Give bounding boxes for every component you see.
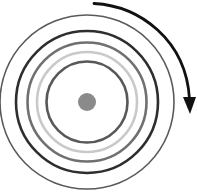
background [0, 0, 197, 192]
rotation-diagram [0, 0, 197, 192]
center-dot [78, 93, 96, 111]
